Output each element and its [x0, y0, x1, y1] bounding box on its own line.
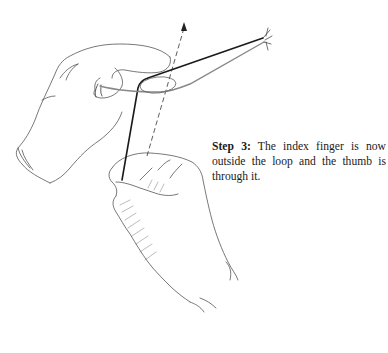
figure-caption: Step 3: The index finger is now outside …: [212, 139, 386, 184]
direction-arrow: [147, 22, 187, 156]
caption-step-label: Step 3:: [212, 140, 251, 153]
left-hand: [16, 44, 170, 183]
